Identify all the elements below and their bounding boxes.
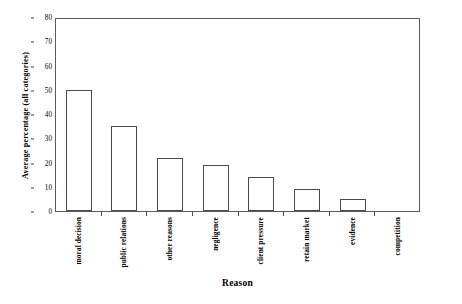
y-axis-tick-mark [31,115,35,116]
bar [66,90,92,211]
x-axis-tick-mark [101,212,102,216]
bar [248,177,274,211]
x-axis-category-label: client pressure [253,217,267,275]
x-axis-category-label: evidence [345,217,359,275]
y-axis-title-text: Average percentage (all categories) [22,51,31,178]
x-axis-category-label-text: competition [393,217,402,255]
x-axis-category-label: competition [390,217,404,275]
x-axis-tick-mark [238,212,239,216]
y-axis-tick-label: 70 [45,38,52,46]
y-axis-tick-label: 60 [45,63,52,71]
x-axis-category-labels: moral decisionpublic relationsother reas… [55,217,420,275]
bars-container [56,19,419,211]
x-axis-tick-mark [146,212,147,216]
y-axis-tick-label: 30 [45,135,52,143]
y-axis-tick-mark [31,18,35,19]
y-axis-tick-mark [31,187,35,188]
plot-area [55,18,420,212]
bar [340,199,366,211]
bar-chart: Average percentage (all categories) 0102… [0,0,462,304]
y-axis-tick-label: 50 [45,87,52,95]
x-axis-category-label-text: evidence [347,217,356,245]
y-axis-tick-mark [31,163,35,164]
y-axis-tick-labels: 01020304050607080 [34,18,52,212]
x-axis-category-label-text: public relations [119,217,128,268]
y-axis-tick-label: 80 [45,14,52,22]
x-axis-tick-mark [283,212,284,216]
x-axis-category-label: negligence [208,217,222,275]
x-axis-category-label: moral decision [71,217,85,275]
y-axis-tick-label: 10 [45,184,52,192]
bar [157,158,183,211]
bar [294,189,320,211]
x-axis-category-label: public relations [116,217,130,275]
y-axis-tick-label: 0 [48,208,52,216]
y-axis-tick-mark [31,66,35,67]
y-axis-tick-mark [31,139,35,140]
x-axis-tick-mark [329,212,330,216]
x-axis-category-label-text: moral decision [73,217,82,265]
x-axis-category-label: other reasons [162,217,176,275]
x-axis-category-label-text: other reasons [165,217,174,261]
y-axis-tick-label: 20 [45,160,52,168]
x-axis-category-label: retain market [299,217,313,275]
y-axis-tick-mark [31,212,35,213]
x-axis-category-label-text: client pressure [256,217,265,264]
bar [111,126,137,211]
x-axis-tick-mark [192,212,193,216]
x-axis-category-label-text: retain market [301,217,310,262]
x-axis-category-label-text: negligence [210,217,219,251]
y-axis-tick-mark [31,90,35,91]
y-axis-tick-mark [31,42,35,43]
bar [203,165,229,211]
x-axis-tick-mark [374,212,375,216]
x-axis-title: Reason [55,278,420,288]
y-axis-tick-label: 40 [45,111,52,119]
